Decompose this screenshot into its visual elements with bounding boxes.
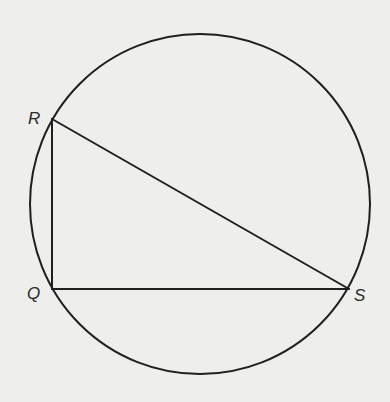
vertex-label-s: S: [354, 286, 366, 305]
vertex-label-r: R: [28, 109, 40, 128]
diagram-canvas: R Q S: [0, 0, 390, 402]
vertex-label-q: Q: [27, 284, 40, 303]
segment-rs-hypotenuse: [52, 119, 349, 289]
triangle-inscribed-in-circle-figure: R Q S: [0, 0, 390, 402]
